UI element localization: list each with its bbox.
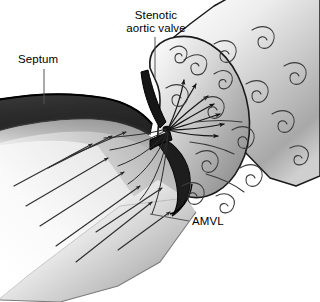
anatomy-illustration [0, 0, 320, 302]
label-amvl: AMVL [192, 215, 224, 228]
swirl [216, 194, 234, 213]
label-stenotic-aortic-valve: Stenoticaortic valve [103, 9, 209, 35]
label-stenotic-line1: Stenotic [135, 9, 177, 21]
aortic-stenosis-figure: Septum Stenoticaortic valve AMVL [0, 0, 320, 302]
label-stenotic-line2: aortic valve [126, 22, 185, 34]
label-septum: Septum [18, 53, 58, 66]
swirl [240, 165, 262, 187]
